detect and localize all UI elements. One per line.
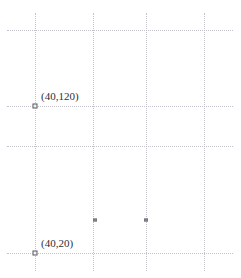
scatter-plot-canvas: (40,120)(40,20) bbox=[0, 0, 241, 278]
data-point-marker[interactable] bbox=[33, 104, 38, 109]
data-point-marker[interactable] bbox=[33, 251, 38, 256]
gridline-x-40 bbox=[35, 13, 36, 271]
gridline-x-160 bbox=[146, 13, 147, 271]
gridline-y-120 bbox=[7, 106, 233, 107]
gridline-y-80 bbox=[7, 146, 233, 147]
data-point-marker[interactable] bbox=[93, 219, 97, 222]
gridline-x-100 bbox=[93, 13, 94, 271]
gridline-y-20 bbox=[7, 253, 233, 254]
point-label: (40,120) bbox=[41, 90, 79, 102]
data-point-marker[interactable] bbox=[144, 219, 148, 222]
gridline-y-150 bbox=[7, 30, 233, 31]
point-label: (40,20) bbox=[41, 237, 73, 249]
gridline-x-220 bbox=[204, 13, 205, 271]
